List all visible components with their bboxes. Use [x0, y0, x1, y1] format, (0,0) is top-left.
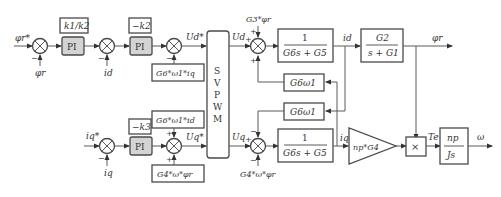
svg-text:−: −	[98, 154, 105, 163]
id-fb-label: id	[104, 68, 113, 78]
svg-text:G6*ω1*id: G6*ω1*id	[156, 116, 195, 125]
svg-text:G6s + G5: G6s + G5	[283, 148, 327, 158]
svg-text:−: −	[250, 156, 257, 165]
d-disturbance-label: G3*φr	[246, 15, 272, 24]
iq-ref-label: iq*	[86, 131, 100, 141]
summing-junction-7	[251, 139, 266, 154]
svg-text:+: +	[250, 27, 257, 36]
summing-junction-4	[251, 39, 266, 54]
flux-ref-label: φr*	[15, 33, 31, 43]
svg-text:PI: PI	[135, 142, 145, 152]
svg-text:PI: PI	[135, 42, 145, 52]
ud-label: Ud	[232, 32, 246, 42]
svg-text:P: P	[214, 90, 220, 100]
svg-text:+: +	[250, 56, 257, 65]
ud-star-label: Ud*	[186, 32, 204, 42]
svg-text:G6*ω1*iq: G6*ω1*iq	[156, 69, 195, 78]
summing-junction-6	[167, 139, 182, 154]
iq-fb-label: iq	[104, 168, 113, 178]
svg-text:PI: PI	[67, 42, 77, 52]
svg-text:G2: G2	[376, 33, 389, 43]
svg-text:G6ω1: G6ω1	[290, 78, 316, 88]
svg-text:−: −	[31, 54, 38, 63]
summing-junction-5	[100, 139, 115, 154]
summing-junction-3	[167, 39, 182, 54]
svg-text:k1/k2: k1/k2	[64, 21, 90, 31]
svg-text:−: −	[98, 54, 105, 63]
svg-text:G4*ω*φr: G4*ω*φr	[157, 170, 194, 179]
svg-text:S: S	[214, 66, 220, 76]
flux-fb-label: φr	[35, 68, 46, 78]
svg-text:×: ×	[411, 141, 419, 152]
svg-text:V: V	[213, 78, 221, 88]
svg-text:−k3: −k3	[132, 122, 151, 132]
speed-label: ω	[477, 132, 485, 142]
svg-text:np*G4: np*G4	[353, 143, 379, 152]
uq-label: Uq	[232, 132, 246, 142]
summing-junction-1	[33, 39, 48, 54]
svg-text:+: +	[166, 129, 173, 138]
id-out-label: id	[343, 33, 352, 43]
svg-text:np: np	[447, 133, 459, 143]
svg-text:G6s + G5: G6s + G5	[283, 48, 327, 58]
svg-text:W: W	[213, 102, 223, 112]
torque-label: Te	[428, 132, 439, 142]
svg-text:G6ω1: G6ω1	[290, 107, 316, 117]
svg-text:1: 1	[302, 33, 308, 43]
iq-out-label: iq	[340, 133, 349, 143]
svg-text:Js: Js	[445, 150, 456, 160]
flux-out-label: φr	[432, 33, 443, 43]
svg-text:M: M	[213, 114, 222, 124]
svg-text:−: −	[166, 54, 173, 63]
svg-text:−: −	[250, 127, 257, 136]
svg-text:1: 1	[302, 133, 308, 143]
svg-text:−k2: −k2	[132, 21, 151, 31]
svg-text:+: +	[166, 155, 173, 164]
uq-star-label: Uq*	[186, 132, 204, 142]
control-block-diagram: φr* − φr k1/k2 PI − id −k2 PI − G6*ω1*iq…	[0, 0, 501, 197]
summing-junction-2	[100, 39, 115, 54]
q-disturbance-label: G4*ω*φr	[240, 170, 277, 179]
svg-text:s + G1: s + G1	[368, 48, 399, 58]
